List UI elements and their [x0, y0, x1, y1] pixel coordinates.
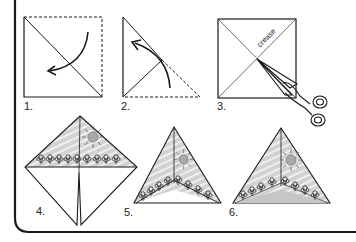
step-6-figure — [233, 128, 330, 203]
step-4-label: 4. — [36, 206, 45, 217]
origami-diagram: crease — [0, 0, 356, 242]
scissors-icon — [257, 59, 327, 126]
step-5-label: 5. — [124, 207, 133, 218]
crease-label: crease — [255, 27, 277, 49]
step-5-figure — [134, 127, 221, 203]
step-6-label: 6. — [229, 207, 238, 218]
fold-arrow-icon — [50, 32, 88, 71]
step-1-figure — [24, 17, 102, 97]
step-1-label: 1. — [24, 101, 33, 112]
step-3-label: 3. — [217, 101, 226, 112]
step-2-figure — [123, 17, 200, 97]
step-3-figure: crease — [218, 19, 327, 126]
step-2-label: 2. — [121, 101, 130, 112]
